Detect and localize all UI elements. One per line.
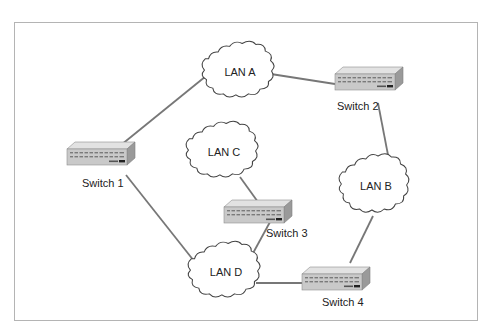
switch-4 bbox=[302, 267, 370, 290]
switch-2 bbox=[335, 67, 403, 90]
switch-4-label: Switch 4 bbox=[322, 296, 364, 308]
switch-1-label: Switch 1 bbox=[82, 177, 124, 189]
lan-b-label: LAN B bbox=[360, 180, 392, 192]
lan-c-label: LAN C bbox=[208, 146, 240, 158]
switch-1 bbox=[67, 142, 135, 165]
lan-a-label: LAN A bbox=[224, 66, 256, 78]
link-lanc-switch3 bbox=[240, 177, 258, 202]
link-switch2-lanb bbox=[378, 103, 388, 155]
network-diagram: LAN A LAN C LAN B LAN D Switch 1 Switch … bbox=[0, 0, 489, 332]
link-switch1-land bbox=[126, 175, 198, 266]
switch-2-label: Switch 2 bbox=[337, 100, 379, 112]
link-lanb-switch4 bbox=[350, 216, 373, 263]
switch-3 bbox=[224, 200, 292, 223]
lan-d-label: LAN D bbox=[210, 266, 242, 278]
switch-3-label: Switch 3 bbox=[266, 227, 308, 239]
